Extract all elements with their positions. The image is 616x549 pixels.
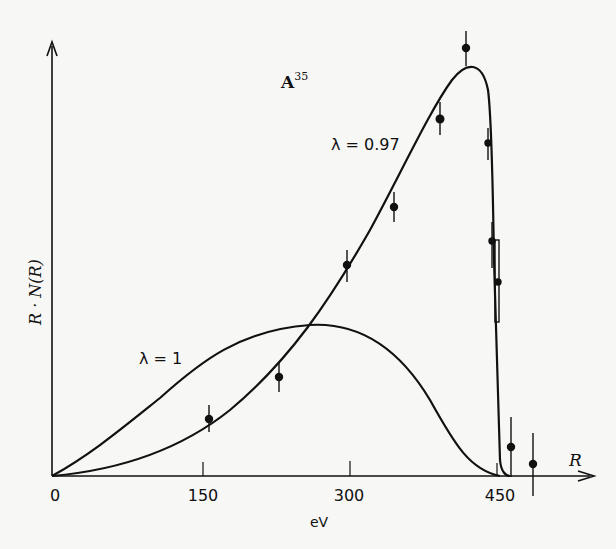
data-point [508, 417, 515, 477]
y-axis-label: R · N(R) [26, 259, 45, 325]
x-tick-label-450: 450 [485, 486, 516, 505]
title-main: A [281, 72, 294, 92]
label-lambda-1: λ = 1 [139, 349, 182, 368]
data-point [436, 102, 444, 135]
data-point [344, 250, 351, 282]
x-tick-label-300: 300 [334, 486, 365, 505]
curve-lambda-1 [52, 325, 500, 476]
chart-title: A35 [281, 70, 308, 92]
title-superscript: 35 [294, 70, 308, 83]
x-axis-name: R [569, 450, 582, 470]
x-tick-label-150: 150 [188, 486, 219, 505]
data-point [463, 31, 470, 66]
x-tick-label-0: 0 [50, 486, 60, 505]
x-axis-unit: eV [310, 514, 328, 530]
axes [47, 42, 594, 481]
label-lambda-097: λ = 0.97 [331, 135, 400, 154]
data-point [391, 192, 398, 222]
data-points [206, 31, 537, 496]
curve-lambda-097 [52, 67, 510, 476]
x-ticks [203, 461, 497, 476]
data-point [530, 433, 537, 496]
